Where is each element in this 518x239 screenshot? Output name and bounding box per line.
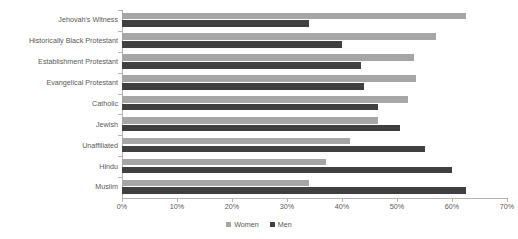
legend-swatch-women-icon <box>226 222 231 227</box>
bar-women[interactable] <box>122 96 408 103</box>
x-axis-tick-label: 70% <box>500 203 514 210</box>
category-label: Evangelical Protestant <box>46 79 118 86</box>
bar-men[interactable] <box>122 104 378 111</box>
legend-label-men: Men <box>278 221 292 228</box>
bar-women[interactable] <box>122 75 416 82</box>
bar-men[interactable] <box>122 20 309 27</box>
bar-women[interactable] <box>122 138 350 145</box>
legend-label-women: Women <box>234 221 259 228</box>
legend-item-women[interactable]: Women <box>226 221 259 228</box>
bar-women[interactable] <box>122 117 378 124</box>
chart-category-row: Hindu <box>0 156 518 177</box>
bar-men[interactable] <box>122 62 361 69</box>
chart-legend: Women Men <box>0 221 518 228</box>
bar-group <box>122 52 507 73</box>
bar-group <box>122 114 507 135</box>
legend-swatch-men-icon <box>270 222 275 227</box>
bar-women[interactable] <box>122 159 326 166</box>
x-axis-tick-label: 30% <box>280 203 294 210</box>
category-label: Unaffiliated <box>82 142 118 149</box>
x-axis-ticks: 0%10%20%30%40%50%60%70% <box>0 198 518 214</box>
bar-men[interactable] <box>122 146 425 153</box>
chart-category-row: Catholic <box>0 94 518 115</box>
category-label: Hindu <box>99 163 118 170</box>
bar-men[interactable] <box>122 125 400 132</box>
x-axis-tick-label: 60% <box>445 203 459 210</box>
x-axis-tick-label: 40% <box>335 203 349 210</box>
bar-group <box>122 156 507 177</box>
category-label: Catholic <box>92 100 118 107</box>
bar-men[interactable] <box>122 41 342 48</box>
bar-group <box>122 10 507 31</box>
category-label: Historically Black Protestant <box>29 38 118 45</box>
category-label: Establishment Protestant <box>38 59 118 66</box>
bar-women[interactable] <box>122 13 466 20</box>
bar-group <box>122 94 507 115</box>
chart-category-row: Establishment Protestant <box>0 52 518 73</box>
chart-category-row: Jehovah's Witness <box>0 10 518 31</box>
bar-group <box>122 135 507 156</box>
category-label: Jehovah's Witness <box>58 17 118 24</box>
chart-category-row: Unaffiliated <box>0 135 518 156</box>
bar-men[interactable] <box>122 83 364 90</box>
x-axis-tick-label: 20% <box>225 203 239 210</box>
category-label: Muslim <box>95 184 118 191</box>
legend-item-men[interactable]: Men <box>270 221 292 228</box>
chart-category-rows: Jehovah's WitnessHistorically Black Prot… <box>0 10 518 198</box>
category-label: Jewish <box>96 121 118 128</box>
bar-women[interactable] <box>122 33 436 40</box>
bar-chart: Jehovah's WitnessHistorically Black Prot… <box>0 0 518 239</box>
bar-women[interactable] <box>122 54 414 61</box>
chart-category-row: Jewish <box>0 114 518 135</box>
x-axis-tick-label: 10% <box>170 203 184 210</box>
chart-category-row: Muslim <box>0 177 518 198</box>
bar-group <box>122 73 507 94</box>
x-axis-tick-label: 50% <box>390 203 404 210</box>
bar-women[interactable] <box>122 180 309 187</box>
chart-category-row: Historically Black Protestant <box>0 31 518 52</box>
x-axis-tick-label: 0% <box>117 203 127 210</box>
bar-men[interactable] <box>122 187 466 194</box>
bar-group <box>122 177 507 198</box>
bar-men[interactable] <box>122 167 452 174</box>
chart-category-row: Evangelical Protestant <box>0 73 518 94</box>
bar-group <box>122 31 507 52</box>
